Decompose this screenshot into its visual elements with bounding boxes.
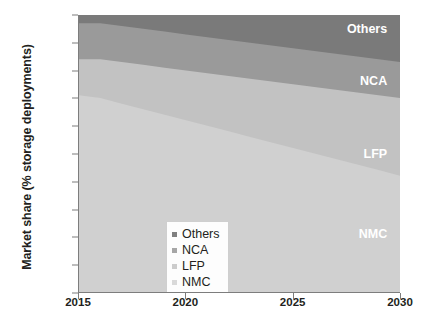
x-tick-mark (78, 293, 79, 299)
legend-item-nmc[interactable]: NMC (171, 274, 220, 290)
legend-swatch-icon (172, 232, 177, 237)
series-label-nca: NCA (360, 74, 387, 88)
x-tick-mark (293, 293, 294, 299)
x-tick-mark (400, 293, 401, 299)
x-tick-mark (185, 293, 186, 299)
figure-root: Market share (% storage deployments) 0%1… (0, 0, 421, 330)
legend-item-lfp[interactable]: LFP (171, 258, 220, 274)
legend-item-nca[interactable]: NCA (171, 242, 220, 258)
legend-label: Others (182, 226, 220, 242)
legend-swatch-icon (172, 248, 177, 253)
legend-item-others[interactable]: Others (171, 226, 220, 242)
chart-legend[interactable]: OthersNCALFPNMC (166, 221, 229, 293)
series-label-others: Others (347, 22, 387, 36)
legend-label: NCA (182, 242, 208, 258)
legend-swatch-icon (172, 280, 177, 285)
series-label-lfp: LFP (364, 147, 388, 161)
legend-label: LFP (182, 258, 205, 274)
legend-swatch-icon (172, 264, 177, 269)
x-tick-label: 2030 (370, 296, 421, 308)
stacked-area-bands (79, 15, 400, 292)
y-axis-title: Market share (% storage deployments) (20, 12, 34, 302)
plot-area: OthersNCALFPNMC OthersNCALFPNMC (78, 15, 400, 293)
legend-label: NMC (182, 274, 210, 290)
series-label-nmc: NMC (359, 227, 387, 241)
